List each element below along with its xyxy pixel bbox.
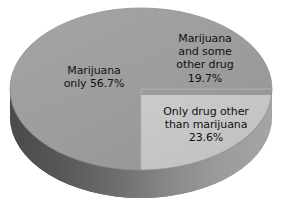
pie-chart-figure: Marijuana only 56.7% Marijuana and some … [0, 0, 282, 210]
pie-top-face [10, 8, 272, 170]
pie-chart-graphic [0, 0, 282, 210]
